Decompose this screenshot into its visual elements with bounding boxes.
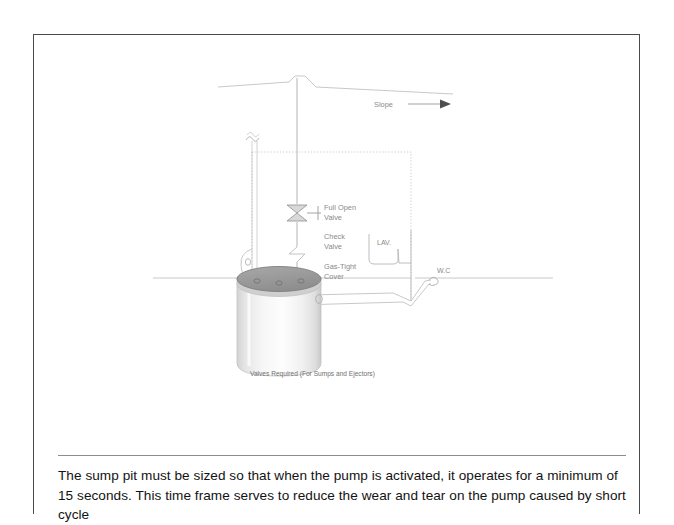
- inlet-ring-upper-icon: [245, 259, 250, 266]
- figure-diagram-area: Slope: [33, 34, 640, 439]
- vent-break-symbol-secondary-icon: [247, 132, 259, 136]
- check-valve-label-line1: Check: [324, 232, 345, 241]
- slope-label: Slope: [374, 100, 393, 109]
- full-open-valve-symbol-icon: [287, 205, 321, 221]
- slope-arrow-group: Slope: [374, 100, 451, 109]
- slope-grade-line-group: [218, 76, 453, 94]
- slope-arrow-head-icon: [440, 100, 451, 109]
- section-divider-rule: [58, 455, 626, 456]
- sloped-sewer-line: [218, 76, 453, 94]
- gate-valve-upper-triangle: [287, 205, 307, 213]
- vent-pipe-group: [246, 132, 259, 277]
- check-valve-symbol-icon: [289, 247, 305, 262]
- plumbing-diagram-svg: Slope: [33, 34, 640, 439]
- check-valve-zigzag: [289, 247, 305, 262]
- gate-valve-lower-triangle: [287, 213, 307, 221]
- body-paragraph: The sump pit must be sized so that when …: [58, 466, 636, 525]
- vent-break-symbol-icon: [246, 137, 259, 142]
- full-open-valve-label-line1: Full Open: [324, 203, 356, 212]
- water-closet-group: W.C: [429, 267, 450, 286]
- sump-pit-group: [237, 267, 322, 377]
- gas-tight-cover-label-line1: Gas-Tight: [324, 262, 356, 271]
- lavatory-fixture-group: LAV.: [369, 234, 411, 264]
- full-open-valve-label-line2: Valve: [324, 213, 342, 222]
- gas-tight-cover-label-line2: Cover: [324, 272, 344, 281]
- lavatory-label: LAV.: [377, 239, 391, 246]
- drain-riser-to-wc-left: [411, 280, 431, 301]
- lavatory-drain-line: [398, 249, 411, 263]
- figure-caption: Valves Required (For Sumps and Ejectors): [250, 370, 375, 378]
- sump-gas-tight-cover: [237, 267, 321, 292]
- check-valve-label-line2: Valve: [324, 242, 342, 251]
- water-closet-label: W.C: [437, 267, 450, 274]
